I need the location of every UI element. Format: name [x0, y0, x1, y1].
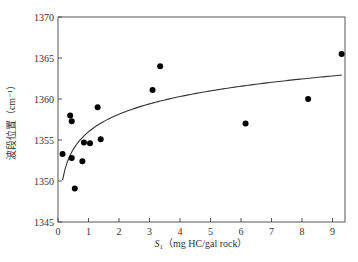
- x-axis-title: S1（mg HC/gal rock）: [155, 238, 248, 251]
- data-point: [60, 151, 66, 157]
- y-tick-label: 1350: [34, 176, 54, 187]
- data-point: [72, 185, 78, 191]
- data-point: [69, 155, 75, 161]
- x-tick-label: 9: [330, 226, 335, 237]
- data-point: [98, 136, 104, 142]
- y-tick-label: 1355: [34, 135, 54, 146]
- x-tick-label: 4: [178, 226, 183, 237]
- data-point: [243, 121, 249, 127]
- y-tick-label: 1370: [34, 12, 54, 23]
- x-tick-label: 3: [147, 226, 152, 237]
- x-tick-label: 1: [86, 226, 91, 237]
- x-tick-label: 6: [239, 226, 244, 237]
- x-tick-label: 8: [300, 226, 305, 237]
- y-tick-label: 1360: [34, 94, 54, 105]
- x-tick-label: 0: [56, 226, 61, 237]
- data-point: [69, 118, 75, 124]
- plot-frame: [58, 17, 345, 222]
- data-point: [150, 87, 156, 93]
- x-tick-label: 7: [269, 226, 274, 237]
- x-axis: 0123456789: [56, 218, 336, 237]
- data-point: [79, 158, 85, 164]
- y-tick-label: 1345: [34, 217, 54, 228]
- data-point: [87, 140, 93, 146]
- data-point: [305, 96, 311, 102]
- scatter-chart: 134513501355136013651370 0123456789 S1（m…: [0, 0, 358, 262]
- data-point: [95, 104, 101, 110]
- y-axis-title: 波段位置（cm⁻¹）: [5, 80, 17, 160]
- x-tick-label: 2: [117, 226, 122, 237]
- data-points: [60, 51, 345, 191]
- fit-curve: [63, 75, 342, 180]
- x-tick-label: 5: [208, 226, 213, 237]
- data-point: [81, 139, 87, 145]
- data-point: [67, 112, 73, 118]
- data-point: [157, 63, 163, 69]
- data-point: [339, 51, 345, 57]
- y-tick-label: 1365: [34, 53, 54, 64]
